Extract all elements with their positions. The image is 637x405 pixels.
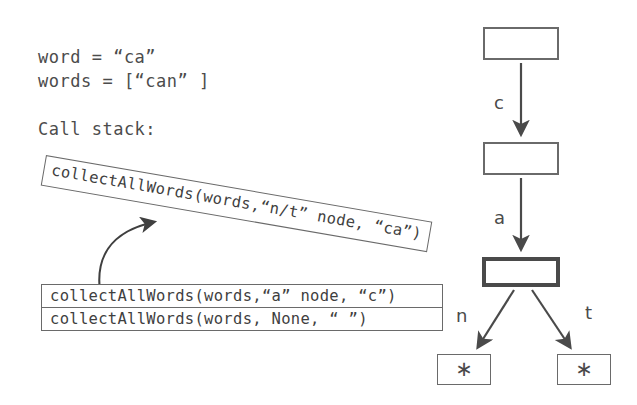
trie-edge-label-a: a [494, 207, 505, 228]
trie-node-n-terminal: ∗ [437, 354, 491, 385]
terminal-asterisk-icon: ∗ [558, 359, 610, 380]
trie-node-t-terminal: ∗ [557, 354, 611, 385]
trie-edge-label-n: n [456, 305, 467, 326]
call-stack-label: Call stack: [38, 119, 156, 139]
trie-node-root [483, 27, 559, 60]
pop-curved-arrow-icon [92, 212, 222, 292]
trie-edge-arrows [420, 0, 637, 405]
stack-frame: collectAllWords(words,“a” node, “c”) [41, 284, 443, 308]
diagram-canvas: word = “ca” words = [“can” ] Call stack:… [0, 0, 637, 405]
variable-word-line: word = “ca” [38, 47, 156, 67]
trie-node-a-active [482, 257, 560, 287]
stack-frame-text: collectAllWords(words, None, “ ”) [50, 310, 368, 328]
stack-frame-text: collectAllWords(words,“a” node, “c”) [50, 287, 397, 305]
trie-edge-label-t: t [585, 302, 592, 323]
terminal-asterisk-icon: ∗ [438, 359, 490, 380]
trie-edge-label-c: c [494, 92, 504, 113]
trie-node-c [483, 142, 559, 175]
stack-frame: collectAllWords(words, None, “ ”) [41, 307, 443, 331]
variable-words-line: words = [“can” ] [38, 71, 210, 91]
